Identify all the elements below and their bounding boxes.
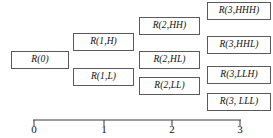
lattice-node: R(1,L) (73, 68, 134, 86)
lattice-node: R(3,HHL) (207, 36, 271, 54)
lattice-node: R(3,HHH) (207, 2, 271, 20)
lattice-node: R(2,LL) (139, 77, 200, 95)
lattice-node: R(1,H) (73, 33, 134, 51)
lattice-node: R(3,LLH) (207, 66, 271, 84)
lattice-node: R(2,HH) (139, 17, 200, 35)
axis-tick-label: 0 (24, 124, 44, 135)
axis-tick-label: 2 (162, 124, 182, 135)
binomial-lattice-diagram: R(0)R(1,H)R(1,L)R(2,HH)R(2,HL)R(2,LL)R(3… (0, 0, 273, 138)
lattice-node: R(2,HL) (139, 51, 200, 69)
axis-tick-label: 1 (94, 124, 114, 135)
lattice-node: R(0) (11, 51, 69, 69)
lattice-node: R(3, LLL) (207, 93, 271, 111)
axis-tick-label: 3 (230, 124, 250, 135)
